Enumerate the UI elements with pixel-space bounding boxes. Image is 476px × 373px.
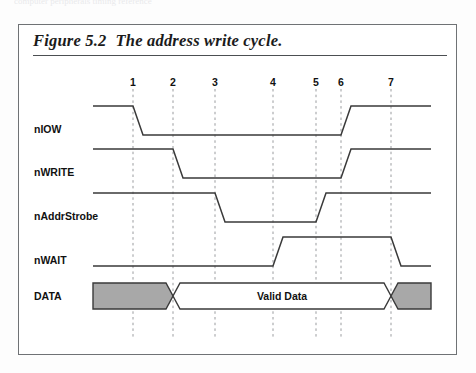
timing-diagram: 1234567 Valid Data nIOWnWRITEnAddrStrobe… xyxy=(19,59,458,355)
signal-labels-group: nIOWnWRITEnAddrStrobenWAITDATA xyxy=(34,123,98,302)
figure-box: Figure 5.2The address write cycle. 12345… xyxy=(18,24,457,355)
figure-title: The address write cycle. xyxy=(116,31,283,50)
waveform-nAddrStrobe xyxy=(93,193,431,222)
scan-artifact-text: computer peripherals timing reference xyxy=(14,0,274,8)
tick-number-7: 7 xyxy=(388,76,394,88)
signal-label-nIOW: nIOW xyxy=(34,123,61,135)
tick-number-4: 4 xyxy=(270,76,276,88)
figure-caption: Figure 5.2The address write cycle. xyxy=(33,31,283,51)
timing-diagram-svg: 1234567 Valid Data nIOWnWRITEnAddrStrobe… xyxy=(19,59,458,355)
bus-segment-invalid xyxy=(93,283,173,309)
waveforms-group: Valid Data xyxy=(93,106,431,309)
waveform-nWRITE xyxy=(93,149,431,178)
signal-label-nWAIT: nWAIT xyxy=(34,254,67,266)
figure-page: computer peripherals timing reference Fi… xyxy=(0,0,476,373)
bus-value-label: Valid Data xyxy=(257,290,307,302)
signal-label-nWRITE: nWRITE xyxy=(34,166,74,178)
signal-label-DATA: DATA xyxy=(34,290,62,302)
tick-number-3: 3 xyxy=(212,76,218,88)
bus-segment-invalid xyxy=(391,283,431,309)
tick-number-1: 1 xyxy=(130,76,136,88)
tick-number-6: 6 xyxy=(338,76,344,88)
tick-numbers-group: 1234567 xyxy=(130,76,394,88)
signal-label-nAddrStrobe: nAddrStrobe xyxy=(34,210,98,222)
waveform-nIOW xyxy=(93,106,431,135)
tick-number-5: 5 xyxy=(313,76,319,88)
figure-number: Figure 5.2 xyxy=(33,31,107,50)
waveform-nWAIT xyxy=(93,237,431,266)
caption-rule xyxy=(33,55,447,56)
tick-number-2: 2 xyxy=(170,76,176,88)
